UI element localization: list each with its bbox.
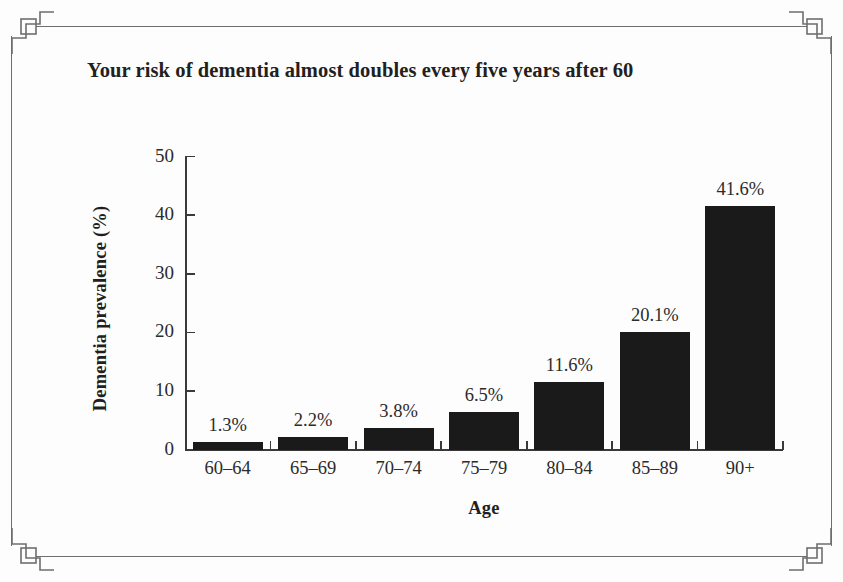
bar <box>278 437 348 450</box>
y-axis-line <box>185 156 187 451</box>
y-axis-title: Dementia prevalence (%) <box>90 179 111 439</box>
bar <box>193 442 263 450</box>
bar <box>364 428 434 450</box>
x-axis-tick <box>526 441 528 450</box>
x-axis-tick-label: 70–74 <box>356 458 442 479</box>
x-axis-title: Age <box>185 498 783 519</box>
y-axis-tick <box>186 390 195 392</box>
x-axis-tick-label: 65–69 <box>270 458 356 479</box>
y-axis-tick <box>186 273 195 275</box>
y-axis-tick-label: 40 <box>134 203 174 225</box>
bar-value-label: 6.5% <box>439 385 529 406</box>
y-axis-tick-label: 10 <box>134 379 174 401</box>
y-axis-tick-label: 20 <box>134 320 174 342</box>
bar <box>620 332 690 450</box>
y-axis-tick <box>186 214 195 216</box>
bar-value-label: 2.2% <box>268 410 358 431</box>
bar-value-label: 3.8% <box>354 401 444 422</box>
x-axis-tick <box>355 441 357 450</box>
x-axis-tick-label: 90+ <box>697 458 783 479</box>
x-axis-tick-label: 85–89 <box>612 458 698 479</box>
bar-value-label: 11.6% <box>524 355 614 376</box>
x-axis-tick-label: 80–84 <box>526 458 612 479</box>
chart-page: Your risk of dementia almost doubles eve… <box>0 0 843 582</box>
x-axis-tick <box>697 441 699 450</box>
bar <box>449 412 519 450</box>
bar-value-label: 41.6% <box>695 179 785 200</box>
x-axis-tick-label: 60–64 <box>185 458 271 479</box>
y-axis-tick-label: 30 <box>134 262 174 284</box>
x-axis-tick <box>611 441 613 450</box>
bar <box>705 206 775 450</box>
x-axis-tick <box>782 441 784 450</box>
bar-value-label: 20.1% <box>610 305 700 326</box>
x-axis-tick <box>440 441 442 450</box>
y-axis-tick-label: 0 <box>134 438 174 460</box>
y-axis-tick <box>186 332 195 334</box>
y-axis-tick-label: 50 <box>134 145 174 167</box>
bar-chart-plot: Dementia prevalence (%) Age 010203040501… <box>0 0 843 582</box>
y-axis-tick <box>186 156 195 158</box>
bar-value-label: 1.3% <box>183 415 273 436</box>
x-axis-tick <box>270 441 272 450</box>
x-axis-tick-label: 75–79 <box>441 458 527 479</box>
bar <box>534 382 604 450</box>
